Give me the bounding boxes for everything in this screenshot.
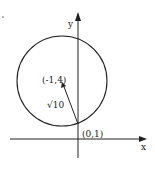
diagram-canvas: y x (-1,4) √10 (0,1)	[0, 0, 155, 170]
y-axis-arrow-icon	[75, 12, 81, 21]
center-label: (-1,4)	[42, 75, 66, 85]
x-axis-label: x	[141, 142, 146, 152]
point-label: (0,1)	[82, 129, 103, 139]
radius-label: √10	[47, 100, 64, 110]
stray-dot	[2, 16, 4, 18]
radius-line	[63, 84, 78, 124]
y-axis-label: y	[67, 19, 74, 29]
